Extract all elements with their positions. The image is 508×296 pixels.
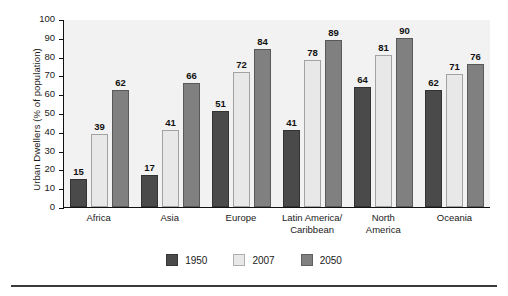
bar-group: 153962 xyxy=(64,20,135,207)
bar[interactable]: 15 xyxy=(70,179,87,207)
y-tick-mark xyxy=(59,208,64,209)
x-category-label-line: Oceania xyxy=(419,212,490,224)
x-category-label-line: Europe xyxy=(205,212,276,224)
x-category-label-line: America xyxy=(348,224,419,236)
bar-value-label: 89 xyxy=(316,27,351,38)
y-axis-title: Urban Dwellers (% of population) xyxy=(31,20,42,220)
bar[interactable]: 41 xyxy=(283,130,300,207)
y-tick-label: 40 xyxy=(44,126,55,138)
legend-item[interactable]: 1950 xyxy=(166,254,207,266)
bar[interactable]: 66 xyxy=(183,83,200,207)
bar-group: 417889 xyxy=(277,20,348,207)
bar[interactable]: 78 xyxy=(304,60,321,207)
bar-group: 174166 xyxy=(135,20,206,207)
x-axis-category-labels: AfricaAsiaEuropeLatin America/CaribbeanN… xyxy=(63,212,490,235)
bar[interactable]: 41 xyxy=(162,130,179,207)
bar[interactable]: 90 xyxy=(396,38,413,207)
legend-swatch xyxy=(301,254,313,266)
bar-fill xyxy=(162,130,179,207)
chart-legend: 195020072050 xyxy=(0,254,508,266)
bar[interactable]: 84 xyxy=(254,49,271,207)
bar-fill xyxy=(233,72,250,207)
y-tick-label: 30 xyxy=(44,145,55,157)
bar[interactable]: 71 xyxy=(446,74,463,207)
bar-value-label: 76 xyxy=(458,51,493,62)
bar-fill xyxy=(375,55,392,207)
bar-fill xyxy=(212,111,229,207)
x-category-label: Latin America/Caribbean xyxy=(277,212,348,235)
bar-fill xyxy=(183,83,200,207)
chart-figure: Urban Dwellers (% of population) 1009080… xyxy=(0,0,508,296)
y-tick-label: 80 xyxy=(44,51,55,63)
plot-area: 1009080706050403020100 15396217416651728… xyxy=(63,20,490,208)
legend-swatch xyxy=(166,254,178,266)
bar-fill xyxy=(446,74,463,207)
bar[interactable]: 62 xyxy=(425,90,442,207)
x-category-label: Europe xyxy=(205,212,276,235)
x-category-label: Oceania xyxy=(419,212,490,235)
bar[interactable]: 39 xyxy=(91,134,108,207)
y-tick-label: 0 xyxy=(50,201,55,213)
bar-fill xyxy=(325,40,342,207)
x-category-label-line: Latin America/ xyxy=(277,212,348,224)
legend-item[interactable]: 2007 xyxy=(233,254,274,266)
bar-group: 517284 xyxy=(206,20,277,207)
bar-value-label: 90 xyxy=(387,25,422,36)
x-category-label: NorthAmerica xyxy=(348,212,419,235)
bar[interactable]: 62 xyxy=(112,90,129,207)
x-category-label-line: Asia xyxy=(134,212,205,224)
bar[interactable]: 89 xyxy=(325,40,342,207)
x-category-label: Asia xyxy=(134,212,205,235)
bottom-divider xyxy=(11,285,497,287)
bar[interactable]: 51 xyxy=(212,111,229,207)
x-category-label-line: North xyxy=(348,212,419,224)
bar-fill xyxy=(70,179,87,207)
y-tick-label: 60 xyxy=(44,88,55,100)
bar-fill xyxy=(254,49,271,207)
bar-fill xyxy=(283,130,300,207)
legend-label: 2050 xyxy=(320,255,342,266)
bar[interactable]: 76 xyxy=(467,64,484,207)
bar-groups: 153962174166517284417889648190627176 xyxy=(64,20,490,207)
bar-group: 648190 xyxy=(348,20,419,207)
legend-label: 2007 xyxy=(252,255,274,266)
bar-fill xyxy=(425,90,442,207)
bar-value-label: 62 xyxy=(103,77,138,88)
bar-value-label: 84 xyxy=(245,36,280,47)
bar-fill xyxy=(304,60,321,207)
x-category-label-line: Caribbean xyxy=(277,224,348,236)
bar-fill xyxy=(354,87,371,207)
y-tick-label: 90 xyxy=(44,32,55,44)
y-tick-label: 10 xyxy=(44,182,55,194)
bar-fill xyxy=(396,38,413,207)
bar[interactable]: 81 xyxy=(375,55,392,207)
bar-fill xyxy=(141,175,158,207)
y-tick-label: 100 xyxy=(39,13,55,25)
bar[interactable]: 64 xyxy=(354,87,371,207)
y-tick-label: 70 xyxy=(44,69,55,81)
bar[interactable]: 72 xyxy=(233,72,250,207)
y-tick-label: 50 xyxy=(44,107,55,119)
legend-item[interactable]: 2050 xyxy=(301,254,342,266)
bar-value-label: 66 xyxy=(174,70,209,81)
legend-label: 1950 xyxy=(185,255,207,266)
bar[interactable]: 17 xyxy=(141,175,158,207)
bar-fill xyxy=(467,64,484,207)
bar-fill xyxy=(112,90,129,207)
x-category-label-line: Africa xyxy=(63,212,134,224)
bar-fill xyxy=(91,134,108,207)
bar-group: 627176 xyxy=(419,20,490,207)
y-tick-label: 20 xyxy=(44,163,55,175)
legend-swatch xyxy=(233,254,245,266)
x-category-label: Africa xyxy=(63,212,134,235)
